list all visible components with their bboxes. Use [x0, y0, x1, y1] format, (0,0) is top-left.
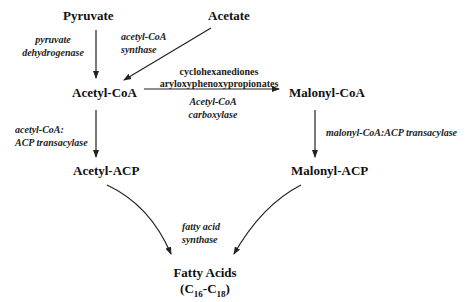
enzyme-fatty-acid-synthase: fatty acid synthase [182, 220, 220, 246]
range-close: ) [226, 281, 230, 296]
enzyme-line: dehydrogenase [20, 46, 86, 59]
enzyme-acetyl-coa-carboxylase: Acetyl-CoA carboxylase [183, 95, 243, 121]
enzyme-acetyl-coa-synthase: acetyl-CoA synthase [121, 30, 167, 56]
inhibitor-cyclohexanediones: cyclohexanediones [156, 66, 282, 78]
enzyme-malonyl-coa-acp-transacylase: malonyl-CoA:ACP transacylase [326, 126, 457, 139]
enzyme-line: Acetyl-CoA [183, 95, 243, 108]
range-sub-18: 18 [217, 289, 226, 299]
range-open: (C [180, 281, 194, 296]
arrow-malonyl-acp-to-fatty-acids [234, 185, 301, 254]
fatty-acids-chain-range: (C16-C18) [165, 281, 245, 299]
enzyme-line: fatty acid [182, 220, 220, 233]
inhibitor-labels: cyclohexanediones aryloxyphenoxypropiona… [156, 66, 282, 90]
node-malonyl-coa: Malonyl-CoA [289, 85, 365, 101]
enzyme-line: carboxylase [183, 108, 243, 121]
node-acetyl-coa: Acetyl-CoA [72, 85, 137, 101]
enzyme-pyruvate-dehydrogenase: pyruvate dehydrogenase [20, 33, 86, 59]
enzyme-line: synthase [182, 233, 220, 246]
inhibitor-aryloxyphenoxypropionates: aryloxyphenoxypropionates [156, 78, 282, 90]
enzyme-line: acetyl-CoA: [15, 123, 88, 136]
enzyme-line: synthase [121, 43, 167, 56]
enzyme-acetyl-coa-acp-transacylase: acetyl-CoA: ACP transacylase [15, 123, 88, 149]
node-acetyl-acp: Acetyl-ACP [73, 163, 139, 179]
node-pyruvate: Pyruvate [63, 8, 114, 24]
range-sub-16: 16 [194, 289, 203, 299]
node-fatty-acids: Fatty Acids (C16-C18) [165, 265, 245, 299]
enzyme-line: ACP transacylase [15, 136, 88, 149]
range-dash: -C [203, 281, 217, 296]
enzyme-line: acetyl-CoA [121, 30, 167, 43]
node-malonyl-acp: Malonyl-ACP [291, 163, 368, 179]
fatty-acids-label: Fatty Acids [165, 265, 245, 281]
node-acetate: Acetate [208, 8, 250, 24]
arrow-acetyl-acp-to-fatty-acids [107, 185, 171, 254]
enzyme-line: pyruvate [20, 33, 86, 46]
